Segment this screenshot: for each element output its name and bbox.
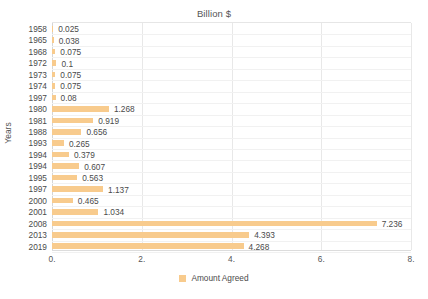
y-axis-tick-1958: 1958 — [0, 24, 47, 34]
y-axis-tick-1965: 1965 — [0, 35, 47, 45]
bar-value-label: 0.1 — [61, 59, 73, 69]
y-axis-tick-1980: 1980 — [0, 104, 47, 114]
bar-row[interactable]: 0.465 — [52, 195, 411, 206]
bar-1958[interactable] — [52, 26, 53, 32]
bar-row[interactable]: 1.034 — [52, 206, 411, 217]
y-axis-tick-2000: 2000 — [0, 196, 47, 206]
bar-2019[interactable] — [52, 243, 244, 249]
bar-value-label: 0.563 — [82, 173, 103, 183]
bar-value-label: 4.268 — [249, 242, 270, 252]
x-axis-tick-2: 2. — [138, 254, 145, 264]
bar-1988[interactable] — [52, 129, 81, 135]
x-axis-tick-0: 0. — [49, 254, 56, 264]
bar-row[interactable]: 0.265 — [52, 138, 411, 149]
bar-1981[interactable] — [52, 118, 93, 124]
y-axis-tick-2013: 2013 — [0, 230, 47, 240]
y-axis-tick-2008: 2008 — [0, 219, 47, 229]
gridline-y — [52, 252, 411, 253]
bar-row[interactable]: 7.236 — [52, 218, 411, 229]
bar-row[interactable]: 0.075 — [52, 46, 411, 57]
bar-2001[interactable] — [52, 209, 98, 215]
bar-1980[interactable] — [52, 106, 109, 112]
bar-row[interactable]: 0.607 — [52, 160, 411, 171]
bar-value-label: 0.465 — [78, 196, 99, 206]
bar-row[interactable]: 0.025 — [52, 23, 411, 34]
y-axis-tick-1974: 1974 — [0, 81, 47, 91]
y-axis-tick-1997: 1997 — [0, 184, 47, 194]
y-axis-tick-1981: 1981 — [0, 116, 47, 126]
y-axis-tick-2019: 2019 — [0, 242, 47, 252]
bar-value-label: 0.038 — [59, 36, 80, 46]
x-axis-tick-4: 4. — [228, 254, 235, 264]
legend-label-amount-agreed: Amount Agreed — [191, 273, 248, 283]
y-axis-tick-1993: 1993 — [0, 138, 47, 148]
bar-row[interactable]: 0.08 — [52, 92, 411, 103]
bar-2000[interactable] — [52, 198, 73, 204]
bar-value-label: 1.034 — [103, 207, 124, 217]
bar-1968[interactable] — [52, 49, 55, 55]
bar-1974[interactable] — [52, 83, 55, 89]
bar-1997[interactable] — [52, 186, 103, 192]
bar-value-label: 0.08 — [61, 93, 77, 103]
bar-row[interactable]: 0.656 — [52, 126, 411, 137]
bar-1997[interactable] — [52, 95, 56, 101]
bar-value-label: 0.919 — [98, 116, 119, 126]
bar-chart: Billion $ Years 0.02519580.03819650.0751… — [0, 0, 428, 299]
x-axis-tick-6: 6. — [318, 254, 325, 264]
bar-value-label: 4.393 — [254, 230, 275, 240]
bar-row[interactable]: 0.919 — [52, 115, 411, 126]
chart-legend: Amount Agreed — [0, 273, 428, 283]
chart-title: Billion $ — [0, 8, 428, 19]
bar-row[interactable]: 1.137 — [52, 183, 411, 194]
bar-value-label: 0.607 — [84, 162, 105, 172]
bar-value-label: 0.656 — [86, 127, 107, 137]
bar-row[interactable]: 4.268 — [52, 241, 411, 252]
bar-row[interactable]: 0.038 — [52, 34, 411, 45]
y-axis-tick-1994: 1994 — [0, 150, 47, 160]
gridline-x-8 — [411, 23, 412, 250]
bar-row[interactable]: 0.563 — [52, 172, 411, 183]
bar-row[interactable]: 0.1 — [52, 57, 411, 68]
x-axis-tick-8: 8. — [408, 254, 415, 264]
bar-1972[interactable] — [52, 60, 56, 66]
y-axis-tick-1968: 1968 — [0, 47, 47, 57]
y-axis-tick-2001: 2001 — [0, 207, 47, 217]
bar-value-label: 0.025 — [58, 24, 79, 34]
bar-row[interactable]: 0.075 — [52, 69, 411, 80]
bar-value-label: 0.075 — [60, 47, 81, 57]
y-axis-tick-1997: 1997 — [0, 93, 47, 103]
bar-1965[interactable] — [52, 37, 54, 43]
bar-row[interactable]: 1.268 — [52, 103, 411, 114]
y-axis-tick-1988: 1988 — [0, 127, 47, 137]
y-axis-tick-1994: 1994 — [0, 161, 47, 171]
bar-value-label: 7.236 — [382, 219, 403, 229]
bar-value-label: 0.075 — [60, 70, 81, 80]
bar-1995[interactable] — [52, 175, 77, 181]
bar-value-label: 1.268 — [114, 104, 135, 114]
bar-row[interactable]: 4.393 — [52, 229, 411, 240]
bar-value-label: 0.265 — [69, 139, 90, 149]
bar-1994[interactable] — [52, 163, 79, 169]
y-axis-tick-1973: 1973 — [0, 70, 47, 80]
y-axis-tick-1972: 1972 — [0, 58, 47, 68]
bar-2013[interactable] — [52, 232, 249, 238]
bar-1973[interactable] — [52, 72, 55, 78]
bar-value-label: 1.137 — [108, 185, 129, 195]
legend-swatch-amount-agreed — [179, 275, 186, 282]
y-axis-tick-1995: 1995 — [0, 173, 47, 183]
bar-row[interactable]: 0.379 — [52, 149, 411, 160]
bar-value-label: 0.075 — [60, 81, 81, 91]
bar-2008[interactable] — [52, 221, 377, 227]
plot-area: 0.02519580.03819650.07519680.119720.0751… — [52, 22, 411, 251]
bar-1993[interactable] — [52, 140, 64, 146]
bar-1994[interactable] — [52, 152, 69, 158]
bar-value-label: 0.379 — [74, 150, 95, 160]
bar-row[interactable]: 0.075 — [52, 80, 411, 91]
